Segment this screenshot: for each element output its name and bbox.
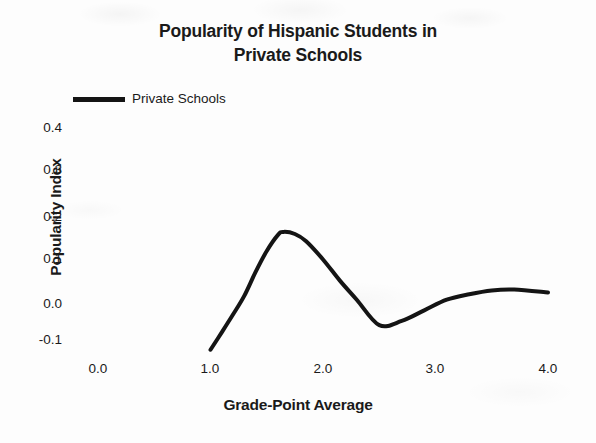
chart-figure: Popularity of Hispanic Students in Priva… <box>0 0 596 443</box>
series-line-private-schools <box>211 232 549 350</box>
data-curve-svg <box>0 0 596 443</box>
plot-area: 0.4 0.3 0.2 0.1 0.0 -0.1 0.0 1.0 2.0 3.0… <box>0 0 596 443</box>
